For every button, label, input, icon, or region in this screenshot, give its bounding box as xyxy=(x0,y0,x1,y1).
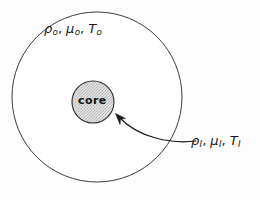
outer-density-symbol: ρo xyxy=(44,21,58,36)
inner-viscosity-symbol: μI xyxy=(210,133,221,148)
core-label: core xyxy=(78,94,107,107)
diagram-svg xyxy=(0,0,260,200)
outer-temperature-symbol: To xyxy=(88,21,102,36)
inner-region-label: ρI,μI,TI xyxy=(191,133,241,149)
outer-viscosity-symbol: μo xyxy=(66,21,80,36)
outer-region-label: ρo,μo,To xyxy=(44,21,102,37)
inner-density-symbol: ρI xyxy=(191,133,202,148)
inner-temperature-symbol: TI xyxy=(230,133,241,148)
diagram-canvas: ρo,μo,To ρI,μI,TI core xyxy=(0,0,260,200)
